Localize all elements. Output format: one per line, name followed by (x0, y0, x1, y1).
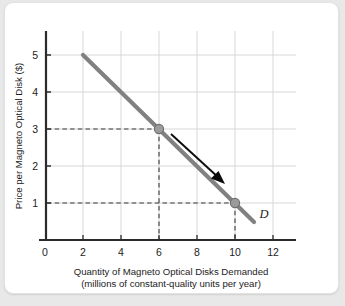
x-axis-title: Quantity of Magneto Optical Disks Demand… (74, 266, 269, 277)
y-axis-title: Price per Magneto Optical Disk ($) (13, 63, 24, 210)
x-tick-label-8: 8 (194, 246, 200, 258)
movement-arrow-shaft (171, 134, 219, 178)
x-tick-label-0: 0 (42, 246, 48, 258)
x-tick-label-2: 2 (80, 246, 86, 258)
x-tick-label-10: 10 (229, 246, 241, 258)
data-point-marker-6-3 (154, 124, 163, 133)
x-tick-label-4: 4 (118, 246, 124, 258)
data-point-marker-10-1 (230, 198, 239, 207)
grid-vertical (83, 31, 273, 239)
y-tick-label-2: 2 (32, 160, 38, 172)
guide-lines (47, 129, 235, 239)
y-tick-label-4: 4 (32, 86, 38, 98)
demand-curve-label: D (258, 207, 268, 221)
movement-arrow-icon (171, 134, 225, 184)
x-axis-subtitle: (millions of constant-quality units per … (81, 278, 261, 289)
demand-curve-chart: 5 4 3 2 1 0 2 4 6 8 10 12 (5, 3, 338, 293)
figure-card: 5 4 3 2 1 0 2 4 6 8 10 12 (4, 2, 339, 294)
y-tick-label-5: 5 (32, 49, 38, 61)
demand-curve-line (83, 55, 254, 222)
y-tick-label-1: 1 (32, 197, 38, 209)
y-tick-label-3: 3 (32, 123, 38, 135)
chart-svg: 5 4 3 2 1 0 2 4 6 8 10 12 (5, 3, 338, 293)
x-tick-label-6: 6 (156, 246, 162, 258)
x-tick-label-12: 12 (267, 246, 279, 258)
